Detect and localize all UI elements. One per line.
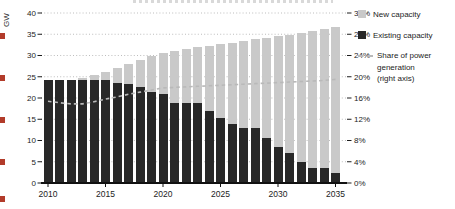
x-axis-tick-label: 2010	[39, 189, 58, 199]
legend-label: Existing capacity	[373, 30, 433, 42]
left-axis-tick-label: 10	[27, 136, 36, 145]
left-axis-tick-label: 35	[27, 30, 36, 39]
x-axis-tick-label: 2015	[96, 189, 115, 199]
right-axis-tick-label: 0%	[354, 179, 366, 188]
left-axis-tick-label: 15	[27, 115, 36, 124]
x-axis-tick-label: 2030	[269, 189, 288, 199]
legend-item-share-of-generation: Share of power generation (right axis)	[358, 50, 454, 85]
x-axis-tick-label: 2025	[211, 189, 230, 199]
left-axis-tick-label: 25	[27, 73, 36, 82]
legend-item-new-capacity: New capacity	[358, 9, 454, 21]
left-axis-tick-label: 30	[27, 51, 36, 60]
new-capacity-swatch-icon	[358, 10, 366, 18]
left-axis-tick-label: 5	[32, 158, 37, 167]
page-edge-mark	[0, 159, 5, 165]
legend-label: Share of power generation (right axis)	[377, 50, 431, 85]
x-axis-tick-label: 2020	[154, 189, 173, 199]
existing-capacity-swatch-icon	[358, 31, 366, 39]
right-axis-tick-label: 4%	[354, 158, 366, 167]
page-edge-mark	[0, 33, 5, 39]
dashed-line-swatch-icon	[358, 55, 373, 57]
legend: New capacity Existing capacity Share of …	[358, 9, 454, 94]
bars-group	[44, 27, 341, 183]
page-edge-mark	[0, 196, 5, 202]
page-edge-mark	[0, 75, 5, 81]
right-axis-tick-label: 12%	[354, 115, 370, 124]
left-axis-tick-label: 0	[32, 179, 37, 188]
legend-label: New capacity	[373, 9, 421, 21]
left-axis-tick-label: 40	[27, 9, 36, 18]
right-axis-tick-label: 8%	[354, 136, 366, 145]
legend-item-existing-capacity: Existing capacity	[358, 30, 454, 42]
chart-figure: GW 4032%3528%3024%2520%2016%1512%108%54%…	[0, 0, 455, 209]
page-edge-mark	[0, 117, 5, 123]
right-axis-tick-label: 16%	[354, 94, 370, 103]
x-axis-tick-label: 2035	[326, 189, 345, 199]
left-axis-tick-label: 20	[27, 94, 36, 103]
